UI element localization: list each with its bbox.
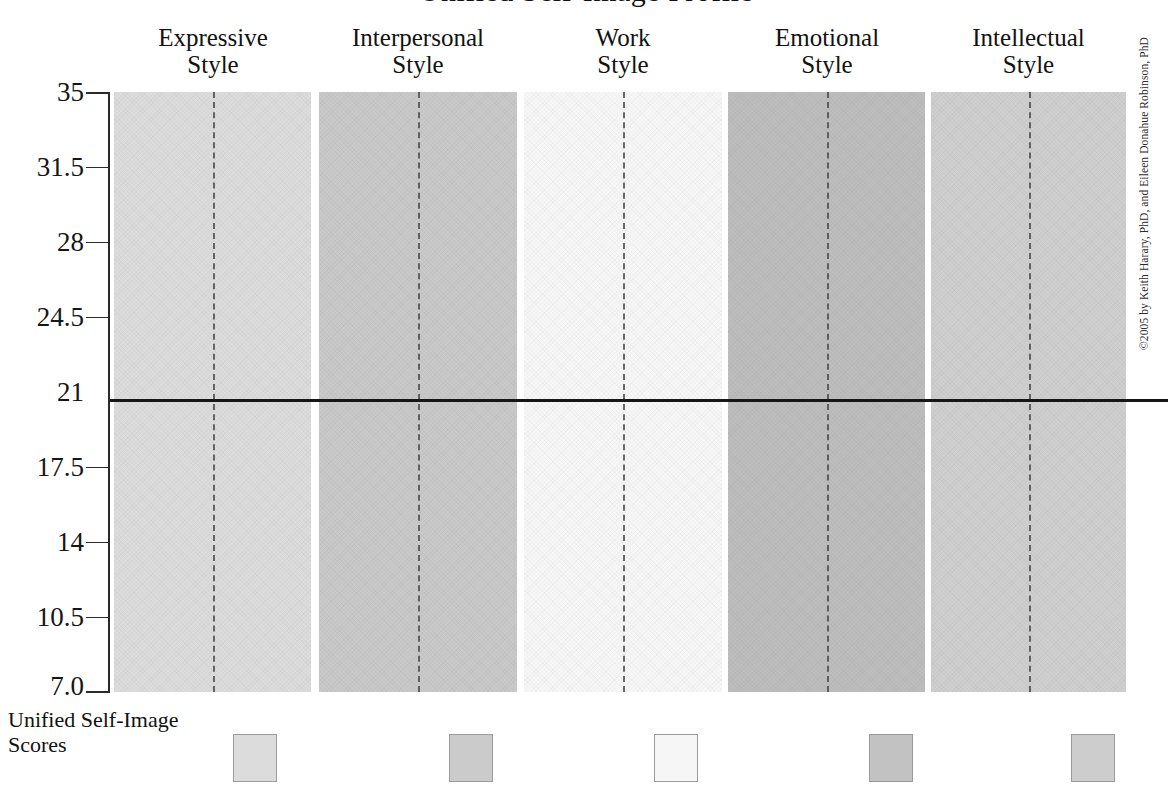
y-label-10-5: 10.5 <box>6 604 84 631</box>
column-header-line1: Interpersonal <box>319 24 517 51</box>
column-header-line1: Expressive <box>114 24 312 51</box>
y-tick-14 <box>86 542 108 543</box>
y-label-14: 14 <box>6 529 84 556</box>
y-label-28: 28 <box>6 229 84 256</box>
legend-swatch-interpersonal <box>449 734 493 782</box>
y-tick-17-5 <box>86 467 108 468</box>
bar-midline-dashed <box>827 92 829 692</box>
column-header-intellectual: Intellectual Style <box>931 24 1126 78</box>
y-tick-7 <box>86 691 110 693</box>
column-header-line2: Style <box>114 51 312 78</box>
page-title-clip: Unified Self-Image Profile <box>0 0 1172 8</box>
column-header-work: Work Style <box>524 24 722 78</box>
y-tick-24-5 <box>86 317 108 318</box>
bar-work[interactable] <box>524 92 722 692</box>
bar-midline-dashed <box>213 92 215 692</box>
y-tick-10-5 <box>86 617 108 618</box>
bar-midline-dashed <box>623 92 625 692</box>
bar-midline-dashed <box>418 92 420 692</box>
reference-line-21 <box>110 399 1168 402</box>
column-header-line1: Intellectual <box>931 24 1126 51</box>
bar-intellectual[interactable] <box>931 92 1126 692</box>
copyright-notice: ©2005 by Keith Harary, PhD, and Eileen D… <box>1138 37 1150 350</box>
y-label-7: 7.0 <box>6 673 84 700</box>
bar-expressive[interactable] <box>114 92 311 692</box>
y-tick-35 <box>86 92 110 94</box>
legend-swatch-intellectual <box>1071 734 1115 782</box>
column-header-expressive: Expressive Style <box>114 24 312 78</box>
column-header-line1: Work <box>524 24 722 51</box>
y-label-31-5: 31.5 <box>6 154 84 181</box>
column-header-line2: Style <box>728 51 926 78</box>
bar-interpersonal[interactable] <box>319 92 517 692</box>
y-label-35: 35 <box>6 79 84 106</box>
legend-swatch-work <box>654 734 698 782</box>
y-label-21: 21 <box>6 379 84 406</box>
legend-label-line2: Scores <box>8 733 223 758</box>
bar-emotional[interactable] <box>728 92 925 692</box>
column-header-emotional: Emotional Style <box>728 24 926 78</box>
column-header-line2: Style <box>931 51 1126 78</box>
bar-midline-dashed <box>1029 92 1031 692</box>
column-header-line1: Emotional <box>728 24 926 51</box>
y-tick-28 <box>86 242 108 243</box>
legend-label-line1: Unified Self-Image <box>8 708 223 733</box>
y-label-24-5: 24.5 <box>6 304 84 331</box>
y-label-17-5: 17.5 <box>6 454 84 481</box>
y-axis-spine <box>108 92 110 693</box>
legend-swatch-expressive <box>233 734 277 782</box>
y-tick-31-5 <box>86 167 108 168</box>
column-header-interpersonal: Interpersonal Style <box>319 24 517 78</box>
column-header-line2: Style <box>319 51 517 78</box>
column-header-line2: Style <box>524 51 722 78</box>
legend-swatch-emotional <box>869 734 913 782</box>
page-title: Unified Self-Image Profile <box>0 0 1172 8</box>
legend-label: Unified Self-Image Scores <box>8 708 223 757</box>
